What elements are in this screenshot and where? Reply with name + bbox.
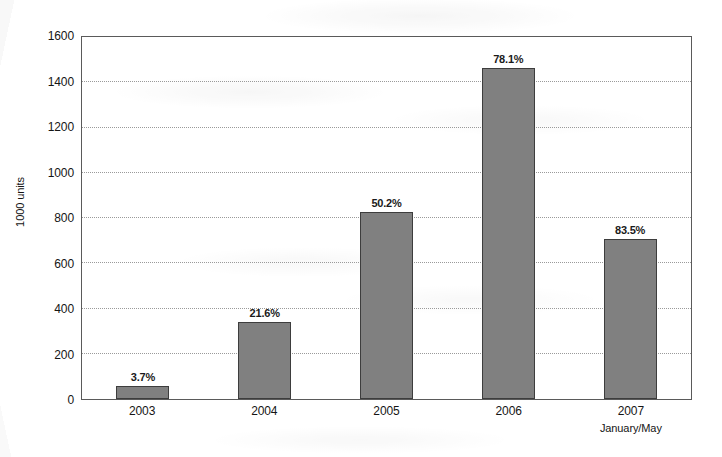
- bar[interactable]: [238, 322, 291, 399]
- y-axis-tick-label: 1600: [14, 29, 74, 43]
- bars-container: 3.7%21.6%50.2%78.1%83.5%: [82, 37, 691, 399]
- bar-value-label: 50.2%: [326, 197, 448, 209]
- bar-value-label: 3.7%: [82, 371, 204, 383]
- x-axis-category-label: 2003: [81, 404, 203, 434]
- y-axis-tick-label: 800: [14, 211, 74, 225]
- y-axis-tick-label: 600: [14, 257, 74, 271]
- bar-value-label: 21.6%: [204, 307, 326, 319]
- bar-chart: 1000 units 02004006008001000120014001600…: [0, 0, 722, 457]
- bar[interactable]: [604, 239, 657, 399]
- y-axis-tick-label: 400: [14, 302, 74, 316]
- bar[interactable]: [482, 68, 535, 399]
- x-axis-category-label: 2005: [325, 404, 447, 434]
- x-axis-category-sublabel: January/May: [570, 422, 692, 434]
- y-axis-tick-labels: 02004006008001000120014001600: [8, 36, 74, 400]
- bar-slot: 50.2%: [326, 37, 448, 399]
- y-axis-tick-label: 0: [14, 393, 74, 407]
- bar-value-label: 83.5%: [569, 224, 691, 236]
- y-axis-tick-label: 1200: [14, 120, 74, 134]
- y-axis-tick-label: 1400: [14, 75, 74, 89]
- bar[interactable]: [116, 386, 169, 399]
- bar-value-label: 78.1%: [447, 53, 569, 65]
- bar-slot: 3.7%: [82, 37, 204, 399]
- x-axis-category-label: 2006: [448, 404, 570, 434]
- y-axis-tick-label: 200: [14, 348, 74, 362]
- bar-slot: 78.1%: [447, 37, 569, 399]
- plot-area: 3.7%21.6%50.2%78.1%83.5%: [81, 36, 692, 400]
- x-axis-category-labels: 20032004200520062007January/May: [81, 404, 692, 434]
- bar-slot: 83.5%: [569, 37, 691, 399]
- x-axis-category-label: 2004: [203, 404, 325, 434]
- y-axis-tick-label: 1000: [14, 166, 74, 180]
- bar-slot: 21.6%: [204, 37, 326, 399]
- x-axis-category-label: 2007January/May: [570, 404, 692, 434]
- bar[interactable]: [360, 212, 413, 399]
